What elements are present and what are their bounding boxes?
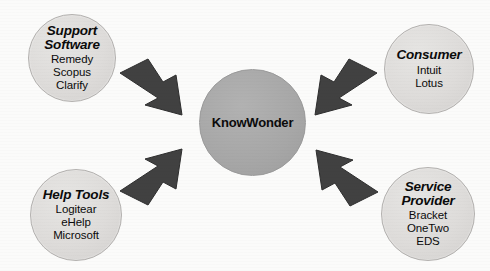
arrow-service-provider-to-center — [300, 142, 380, 210]
node-help-tools-items: Logitear eHelp Microsoft — [53, 203, 99, 242]
node-consumer-items: Intuit Lotus — [415, 64, 443, 90]
node-help-tools[interactable]: Help Tools Logitear eHelp Microsoft — [30, 169, 122, 261]
diagram-canvas: Support Software Remedy Scopus Clarify C… — [0, 0, 490, 271]
node-help-tools-title: Help Tools — [43, 188, 110, 202]
node-support-software[interactable]: Support Software Remedy Scopus Clarify — [28, 14, 116, 102]
arrow-help-tools-to-center — [118, 143, 192, 207]
node-consumer-title: Consumer — [396, 48, 461, 62]
arrow-support-software-to-center — [118, 57, 192, 121]
node-knowwonder-center[interactable]: KnowWonder — [199, 69, 306, 176]
node-knowwonder-label: KnowWonder — [212, 116, 294, 130]
node-service-provider-title: Service Provider — [401, 180, 454, 209]
node-support-software-title: Support Software — [44, 24, 99, 53]
node-service-provider[interactable]: Service Provider Bracket OneTwo EDS — [381, 167, 475, 261]
node-service-provider-items: Bracket OneTwo EDS — [407, 209, 449, 248]
node-consumer[interactable]: Consumer Intuit Lotus — [384, 24, 474, 114]
arrow-consumer-to-center — [305, 57, 379, 121]
node-support-software-items: Remedy Scopus Clarify — [51, 53, 93, 92]
